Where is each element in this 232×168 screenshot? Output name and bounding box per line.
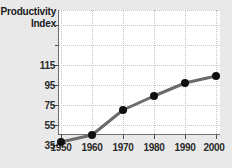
y-axis-label: 55 (25, 121, 55, 131)
series-line-productivity-index (61, 76, 216, 142)
data-point (88, 131, 96, 139)
x-axis-label: 1960 (75, 142, 109, 153)
data-point (150, 92, 158, 100)
data-point (181, 79, 189, 87)
x-axis-tick (123, 135, 124, 139)
chart-title: Productivity Index (0, 6, 56, 30)
y-axis-label: 95 (25, 81, 55, 91)
data-series-layer (58, 10, 220, 135)
data-point (57, 138, 65, 146)
y-axis-label: 115 (25, 61, 55, 71)
chart-figure: Productivity Index 115 95 75 55 35 1950 … (0, 0, 232, 168)
chart-title-line-1: Productivity (0, 6, 56, 18)
data-point (119, 106, 127, 114)
data-point (212, 72, 220, 80)
x-axis-label: 1970 (106, 142, 140, 153)
x-axis-label: 1980 (137, 142, 171, 153)
x-axis-tick (216, 135, 217, 139)
x-axis-tick (154, 135, 155, 139)
x-axis-tick (185, 135, 186, 139)
y-axis-label: 75 (25, 101, 55, 111)
x-axis-label: 2000 (197, 142, 231, 153)
chart-title-line-2: Index (0, 18, 56, 30)
series-markers (57, 72, 220, 146)
